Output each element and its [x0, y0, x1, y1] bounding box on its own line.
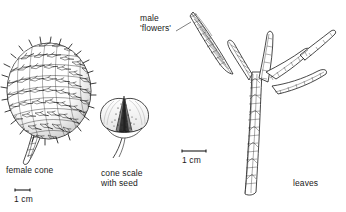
branch-right-tip: [300, 30, 336, 60]
scale-stalk: [113, 138, 122, 158]
label-cone-scale-with-seed: cone scalewith seed: [101, 168, 143, 188]
scale-bar-right: [182, 150, 206, 153]
scale-bar-left-caption: 1 cm: [14, 194, 33, 204]
cone-body-shading: [7, 43, 91, 139]
male-flowers-drawing: [176, 12, 233, 74]
branch-leaf-texture: [229, 33, 332, 193]
female-cone-drawing: [0, 37, 100, 164]
label-cone-scale-line1: cone scale: [101, 168, 143, 178]
label-leaves: leaves: [293, 178, 318, 188]
botanical-illustration-plate: female cone cone scalewith seed male'flo…: [0, 0, 346, 212]
scale-bar-left: [15, 189, 30, 192]
cone-scale-with-seed-drawing: [100, 96, 148, 158]
branch-main-stem: [245, 72, 262, 195]
catkin-midline: [191, 13, 224, 60]
label-cone-scale-line2: with seed: [101, 178, 138, 188]
label-male-line2: 'flowers': [140, 23, 171, 33]
leafy-branch-drawing: [228, 30, 336, 195]
male-flowers-leader-line: [176, 22, 191, 31]
scale-stalk-shade: [119, 138, 125, 157]
scale-bar-right-caption: 1 cm: [182, 155, 201, 165]
label-male-flowers: male'flowers': [140, 13, 171, 33]
label-male-line1: male: [140, 13, 159, 23]
label-female-cone: female cone: [6, 165, 53, 175]
